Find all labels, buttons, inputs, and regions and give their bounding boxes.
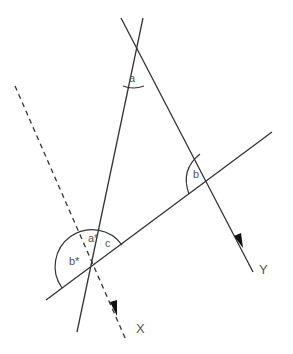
arrow-y-icon (234, 233, 243, 248)
angle-a-label: a (129, 72, 136, 84)
geometry-diagram: a b c a* b* X Y (0, 0, 293, 354)
arrow-x-icon (110, 300, 117, 316)
angle-b-star-label: b* (69, 255, 80, 267)
line-left (77, 18, 143, 332)
ray-x-label: X (136, 321, 145, 336)
line-right (121, 18, 253, 272)
angle-a-star-label: a* (88, 232, 99, 244)
angle-a-arc (123, 86, 144, 88)
angle-c-label: c (105, 237, 111, 249)
dashed-line (15, 86, 126, 340)
ray-y-label: Y (259, 262, 268, 277)
transversal-line (46, 132, 272, 300)
angle-b-label: b (193, 168, 199, 180)
